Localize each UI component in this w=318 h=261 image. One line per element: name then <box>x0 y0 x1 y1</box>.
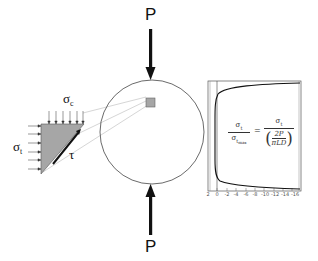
normalized-stress-formula: σt σtmax = σt ( 2P πLD ) <box>228 117 300 161</box>
x-tick: 2 <box>206 191 209 197</box>
x-tick: -16 <box>291 191 299 197</box>
sigma-c-label: σc <box>63 92 74 108</box>
lhs-fraction: σt σtmax <box>228 121 250 145</box>
bottom-load-label: P <box>145 238 156 255</box>
tensile-stress-arrows <box>28 125 41 170</box>
x-tick: -10 <box>261 191 269 197</box>
tau-label: τ <box>69 148 74 161</box>
x-tick: -8 <box>253 191 258 197</box>
equals-sign: = <box>254 126 261 135</box>
compressive-stress-arrows <box>48 111 84 124</box>
chart-x-axis: 2 0 -2 -4 -6 -8 -10 -12 -14 -16 <box>205 191 310 199</box>
disk-specimen <box>100 80 204 184</box>
x-tick: -6 <box>244 191 249 197</box>
rhs-fraction: σt ( 2P πLD ) <box>264 117 294 147</box>
x-tick: -4 <box>234 191 239 197</box>
sigma-t-label: σt <box>13 140 22 156</box>
x-tick: -2 <box>225 191 230 197</box>
top-load-arrow-icon <box>146 29 156 80</box>
x-tick: 0 <box>215 191 218 197</box>
x-tick: -14 <box>281 191 289 197</box>
x-tick: -12 <box>271 191 279 197</box>
top-load-label: P <box>145 6 156 23</box>
bottom-load-arrow-icon <box>146 184 156 235</box>
element-square <box>146 98 155 107</box>
